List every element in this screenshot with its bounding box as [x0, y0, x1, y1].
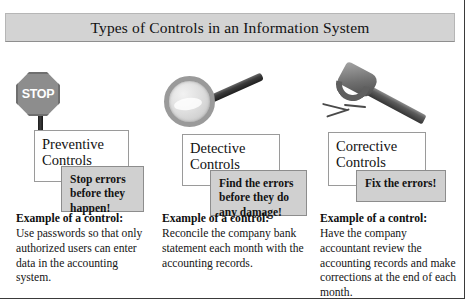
control-detail-box-preventive: Stop errors before they happen!: [61, 166, 144, 212]
icon-area-preventive: STOP: [6, 70, 158, 128]
control-detail-line1: Find the errors: [219, 176, 299, 190]
example-block-preventive: Example of a control: Use passwords so t…: [16, 212, 156, 286]
diagram-title-bar: Types of Controls in an Information Syst…: [5, 13, 455, 42]
nail-icon: [326, 108, 349, 117]
example-body: Use passwords so that only authorized us…: [16, 227, 156, 286]
stop-sign-octagon: STOP: [16, 72, 60, 116]
control-detail-line1: Fix the errors!: [365, 176, 438, 190]
example-label: Example of a control:: [320, 212, 460, 226]
example-label: Example of a control:: [16, 212, 156, 226]
control-detail-line1: Stop errors: [70, 172, 136, 186]
hammer-claw: [329, 60, 376, 107]
control-title-line1: Corrective: [336, 138, 418, 154]
example-body: Have the company accountant review the a…: [320, 227, 460, 299]
icon-area-detective: [160, 70, 315, 128]
example-block-detective: Example of a control: Reconcile the comp…: [162, 212, 314, 271]
nail-icon: [344, 104, 366, 108]
hammer-icon: [322, 66, 452, 132]
control-title-line1: Detective: [190, 140, 272, 156]
hammer-handle: [364, 85, 427, 125]
diagram-frame: Types of Controls in an Information Syst…: [0, 0, 465, 299]
control-detail-box-detective: Find the errors before they do any damag…: [210, 170, 307, 216]
example-block-corrective: Example of a control: Have the company a…: [320, 212, 460, 299]
example-label: Example of a control:: [162, 212, 314, 226]
magnifying-glass-icon: [162, 68, 267, 130]
control-title-line1: Preventive: [42, 136, 121, 152]
page-title: Types of Controls in an Information Syst…: [90, 19, 369, 37]
control-detail-line2: before they do: [219, 190, 299, 204]
control-detail-line2: before they: [70, 186, 136, 200]
stop-sign-label: STOP: [22, 87, 55, 101]
icon-area-corrective: [318, 70, 458, 128]
example-body: Reconcile the company bank statement eac…: [162, 227, 314, 271]
control-title-line2: Controls: [336, 154, 418, 170]
control-detail-box-corrective: Fix the errors!: [356, 170, 446, 202]
